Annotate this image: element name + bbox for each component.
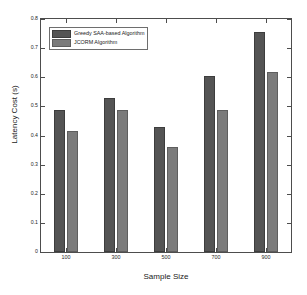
- y-tick-mark: [41, 136, 45, 137]
- y-tick-mark-right: [287, 194, 291, 195]
- bar-700-series-0: [204, 76, 215, 252]
- y-tick-label: 0.5: [31, 104, 38, 109]
- bar-900-series-1: [267, 72, 278, 252]
- y-tick-mark-right: [287, 19, 291, 20]
- y-tick-mark-right: [287, 252, 291, 253]
- legend-swatch-icon-series-0: [52, 30, 71, 38]
- y-tick-mark-right: [287, 165, 291, 166]
- y-tick-mark-right: [287, 106, 291, 107]
- y-tick-mark-right: [287, 223, 291, 224]
- x-tick-label: 300: [112, 255, 121, 260]
- x-tick-label: 900: [262, 255, 271, 260]
- x-tick-label: 100: [62, 255, 71, 260]
- y-tick-label: 0.6: [31, 75, 38, 80]
- bar-700-series-1: [217, 110, 228, 252]
- y-tick-label: 0.8: [31, 16, 38, 21]
- y-tick-mark: [41, 19, 45, 20]
- y-tick-mark: [41, 77, 45, 78]
- y-tick-label: 0.1: [31, 220, 38, 225]
- y-tick-mark: [41, 223, 45, 224]
- x-tick-mark-top: [216, 19, 217, 23]
- legend-item-greedy-saa-based-algorithm[interactable]: Greedy SAA-based Algorithm: [52, 30, 144, 38]
- y-tick-mark: [41, 252, 45, 253]
- bar-500-series-0: [154, 127, 165, 252]
- x-tick-label: 700: [212, 255, 221, 260]
- x-tick-mark-top: [116, 19, 117, 23]
- y-tick-label: 0.7: [31, 46, 38, 51]
- y-tick-mark: [41, 165, 45, 166]
- bar-900-series-0: [254, 32, 265, 252]
- chart-legend: Greedy SAA-based Algorithm JCORM Algorit…: [49, 27, 148, 50]
- legend-label-series-1: JCORM Algorithm: [74, 40, 117, 45]
- y-tick-label: 0.4: [31, 133, 38, 138]
- bar-300-series-1: [117, 110, 128, 252]
- bar-chart-figure: 00.10.20.30.40.50.60.70.8100300500700900…: [0, 0, 307, 295]
- x-tick-mark-top: [166, 19, 167, 23]
- legend-swatch-icon-series-1: [52, 39, 71, 47]
- y-axis-title: Latency Cost (s): [10, 55, 19, 175]
- legend-item-jcorm-algorithm[interactable]: JCORM Algorithm: [52, 39, 144, 47]
- plot-area: 00.10.20.30.40.50.60.70.8100300500700900: [40, 18, 292, 253]
- bar-100-series-0: [54, 110, 65, 252]
- legend-label-series-0: Greedy SAA-based Algorithm: [74, 31, 144, 36]
- bar-100-series-1: [67, 131, 78, 252]
- y-tick-mark: [41, 194, 45, 195]
- y-tick-label: 0.3: [31, 162, 38, 167]
- y-tick-mark: [41, 106, 45, 107]
- x-tick-label: 500: [162, 255, 171, 260]
- y-tick-mark-right: [287, 48, 291, 49]
- x-tick-mark-top: [266, 19, 267, 23]
- bar-500-series-1: [167, 147, 178, 252]
- y-tick-mark: [41, 48, 45, 49]
- y-tick-label: 0.2: [31, 191, 38, 196]
- bar-300-series-0: [104, 98, 115, 252]
- y-tick-mark-right: [287, 77, 291, 78]
- x-axis-title: Sample Size: [40, 272, 292, 281]
- x-tick-mark-top: [66, 19, 67, 23]
- y-tick-label: 0: [35, 249, 38, 254]
- y-tick-mark-right: [287, 136, 291, 137]
